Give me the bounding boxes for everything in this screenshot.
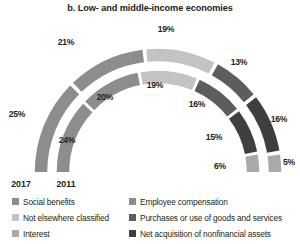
legend-swatch-icon (12, 198, 19, 205)
inner-segment-label-5: 6% (214, 161, 226, 171)
legend-column-left: Social benefitsNot elsewhere classifiedI… (12, 194, 109, 242)
inner-segment-label-3: 16% (189, 99, 206, 109)
inner-segment-label-0: 24% (59, 135, 76, 145)
legend-swatch-icon (129, 198, 136, 205)
chart-legend: Social benefitsNot elsewhere classifiedI… (12, 194, 300, 242)
legend-item[interactable]: Employee compensation (129, 194, 282, 209)
legend-item[interactable]: Interest (12, 226, 109, 241)
legend-swatch-icon (12, 230, 19, 237)
legend-item[interactable]: Purchases or use of goods and services (129, 210, 282, 225)
ring-label-2017: 2017 (11, 179, 31, 189)
legend-item-label: Purchases or use of goods and services (140, 213, 282, 223)
arc-ring-outer-2017 (35, 49, 282, 172)
outer-segment-label-1: 21% (58, 37, 75, 47)
outer-segment-label-0: 25% (9, 109, 26, 119)
legend-item-label: Interest (23, 229, 49, 239)
legend-item-label: Not elsewhere classified (23, 213, 109, 223)
legend-swatch-icon (12, 214, 19, 221)
legend-swatch-icon (129, 214, 136, 221)
legend-swatch-icon (129, 230, 136, 237)
inner-segment-label-2: 19% (147, 80, 164, 90)
legend-item[interactable]: Net acquisition of nonfinancial assets (129, 226, 282, 241)
legend-item-label: Net acquisition of nonfinancial assets (140, 229, 271, 239)
legend-item-label: Employee compensation (140, 197, 228, 207)
arc-segment-2011-5 (245, 155, 259, 172)
outer-segment-label-3: 13% (231, 57, 248, 67)
arc-segment-2011-4 (229, 111, 257, 154)
legend-column-right: Employee compensationPurchases or use of… (129, 194, 282, 242)
ring-label-2011: 2011 (56, 179, 75, 189)
outer-segment-label-2: 19% (158, 24, 175, 34)
outer-segment-label-4: 16% (271, 114, 288, 124)
inner-segment-label-1: 20% (97, 92, 114, 102)
legend-item-label: Social benefits (23, 197, 75, 207)
chart-container: b. Low- and middle-income economies 25% … (0, 0, 300, 244)
arc-segment-2017-5 (268, 154, 282, 172)
legend-item[interactable]: Not elsewhere classified (12, 210, 109, 225)
inner-segment-label-4: 15% (206, 132, 223, 142)
arc-segment-2017-2 (146, 49, 214, 74)
outer-segment-label-5: 5% (283, 157, 295, 167)
legend-item[interactable]: Social benefits (12, 194, 109, 209)
